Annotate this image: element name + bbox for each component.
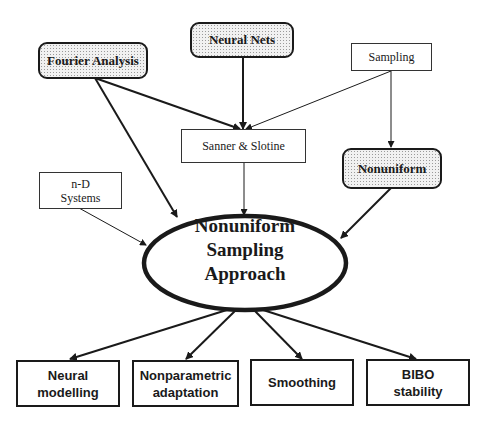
node-nonparametric-adaptation: Nonparametric adaptation <box>132 360 239 407</box>
node-label-line: stability <box>393 383 442 400</box>
node-neural-nets: Neural Nets <box>190 22 294 58</box>
node-label-line: Nonparametric <box>140 367 232 384</box>
edge-nonuniform-to-center <box>341 188 391 238</box>
edge-nd-to-center <box>79 208 146 245</box>
node-label: Sanner & Slotine <box>202 139 285 153</box>
node-label-line: Neural <box>48 367 88 384</box>
center-label: Nonuniform Sampling Approach <box>145 214 345 286</box>
node-bibo-stability: BIBO stability <box>366 359 470 406</box>
node-label-line: modelling <box>37 384 98 401</box>
node-label-line: Systems <box>60 191 100 205</box>
node-label: Nonuniform <box>358 161 427 177</box>
center-label-line: Approach <box>145 262 345 286</box>
node-fourier-analysis: Fourier Analysis <box>38 42 148 79</box>
node-label-line: adaptation <box>153 384 219 401</box>
node-nd-systems: n-D Systems <box>39 172 122 209</box>
center-label-line: Sampling <box>145 238 345 262</box>
node-sampling: Sampling <box>351 43 432 71</box>
node-label: Neural Nets <box>209 32 275 48</box>
node-sanner-slotine: Sanner & Slotine <box>181 129 306 163</box>
node-label: Sampling <box>368 50 414 64</box>
node-label: Smoothing <box>268 374 336 391</box>
node-nonuniform: Nonuniform <box>342 148 442 189</box>
center-label-line: Nonuniform <box>145 214 345 238</box>
edge-center-to-neural-modelling <box>70 309 230 359</box>
edge-center-to-bibo <box>260 309 416 359</box>
edge-fourier-to-sanner <box>95 78 240 129</box>
edge-center-to-nonparametric <box>186 309 237 359</box>
edge-sampling-to-sanner <box>246 71 391 129</box>
edge-center-to-smoothing <box>253 309 302 359</box>
node-label-line: n-D <box>71 177 90 191</box>
node-smoothing: Smoothing <box>250 359 354 406</box>
node-neural-modelling: Neural modelling <box>16 360 120 407</box>
node-label-line: BIBO <box>402 366 435 383</box>
node-label: Fourier Analysis <box>47 53 139 69</box>
